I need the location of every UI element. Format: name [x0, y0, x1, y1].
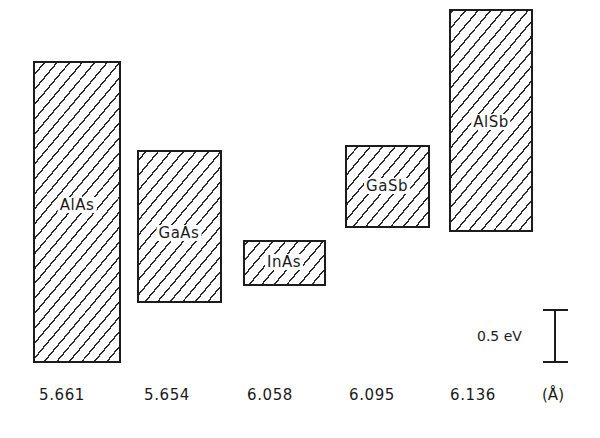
band-box-label: InAs: [265, 254, 303, 270]
scale-bar-line: [554, 310, 556, 362]
lattice-constant-label: 6.095: [349, 386, 395, 404]
scale-bar-bottom-cap: [543, 361, 568, 363]
lattice-constant-label: 5.654: [144, 386, 190, 404]
band-box-label: AlSb: [471, 114, 510, 130]
band-box-label: AlAs: [58, 197, 97, 213]
lattice-constant-label: 5.661: [39, 386, 85, 404]
lattice-constant-label: 6.136: [450, 386, 496, 404]
band-box-label: GaSb: [364, 178, 410, 194]
lattice-constant-label: 6.058: [247, 386, 293, 404]
band-box-label: GaAs: [157, 225, 202, 241]
scale-bar-label: 0.5 eV: [477, 328, 522, 344]
band-alignment-chart: AlAsGaAsInAsGaSbAlSb 5.6615.6546.0586.09…: [0, 0, 600, 438]
unit-label: (Å): [542, 386, 564, 404]
